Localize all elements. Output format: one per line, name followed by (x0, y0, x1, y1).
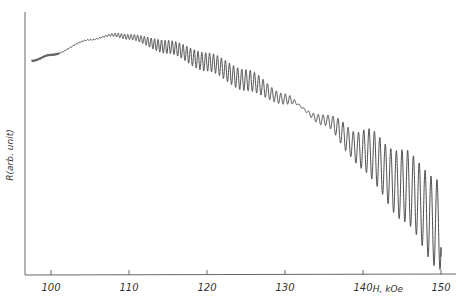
y-axis-label: R(arb. unit) (5, 129, 15, 180)
x-tick-label: 130 (275, 282, 294, 293)
x-axis (25, 274, 456, 275)
x-axis-label: H, kOe (373, 284, 404, 294)
x-tick-label: 140 (353, 282, 372, 293)
x-tick-label: 100 (41, 282, 60, 293)
x-tick-label: 110 (119, 282, 138, 293)
x-tick-label: 120 (197, 282, 216, 293)
resistance-curve (32, 33, 442, 269)
x-tick-label: 150 (431, 282, 450, 293)
chart: 100110120130140150 R(arb. unit) H, kOe (0, 0, 466, 301)
